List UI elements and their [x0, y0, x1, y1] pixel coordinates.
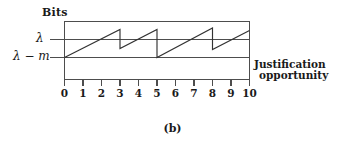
sawtooth-waveform	[65, 28, 250, 58]
tick-label-3: 3	[116, 88, 123, 99]
tick-label-4: 4	[135, 88, 142, 99]
m-symbol: m	[38, 49, 49, 63]
tick-label-5: 5	[153, 88, 160, 99]
tick-label-8: 8	[209, 88, 216, 99]
tick-label-1: 1	[79, 88, 86, 99]
lambda-minus-m-level-label: λ − m	[13, 50, 50, 62]
x-axis-tick-labels: 0 1 2 3 4 5 6 7 8 9 10	[0, 88, 345, 102]
x-axis-title-line1: Justification	[254, 59, 326, 70]
tick-label-9: 9	[227, 88, 234, 99]
figure-caption: (b)	[0, 122, 345, 135]
x-axis-title-line2: opportunity	[259, 70, 328, 81]
minus-symbol: −	[21, 49, 39, 63]
x-axis-ticks	[65, 80, 250, 86]
y-axis-title: Bits	[42, 7, 68, 18]
tick-label-10: 10	[242, 88, 257, 99]
tick-label-6: 6	[172, 88, 179, 99]
tick-label-0: 0	[61, 88, 68, 99]
reference-lines	[50, 40, 250, 58]
lambda-level-label: λ	[36, 32, 44, 44]
tick-label-2: 2	[98, 88, 105, 99]
tick-label-7: 7	[190, 88, 197, 99]
lambda-symbol: λ	[13, 49, 21, 63]
justification-opportunity-figure: Bits λ λ − m Justification opportunity 0	[0, 0, 345, 147]
